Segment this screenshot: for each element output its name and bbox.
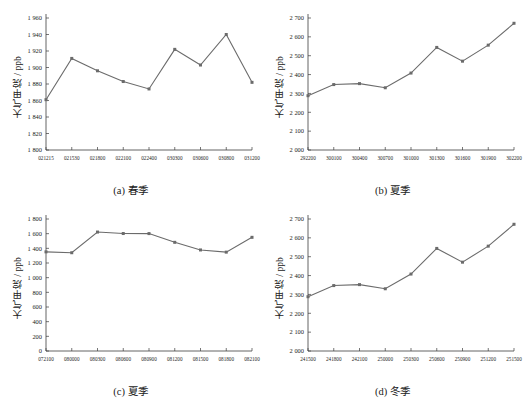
svg-text:081800: 081800 bbox=[218, 356, 234, 362]
y-axis-label-b: 大气甲烷 / ppb bbox=[272, 26, 290, 148]
y-axis-label-a: 大气甲烷 / ppb bbox=[10, 26, 28, 148]
svg-text:1 900: 1 900 bbox=[28, 64, 42, 71]
panel-caption-c: (c) 夏季 bbox=[0, 383, 261, 398]
svg-text:082100: 082100 bbox=[244, 356, 260, 362]
svg-text:1 000: 1 000 bbox=[28, 274, 42, 281]
svg-text:081500: 081500 bbox=[193, 356, 209, 362]
svg-text:200: 200 bbox=[32, 333, 42, 340]
line-chart-b: 2 0002 1002 2002 3002 4002 5002 6002 700… bbox=[262, 0, 523, 180]
figure-panel-grid: 1 8001 8201 8401 8601 8801 9001 9201 940… bbox=[0, 0, 523, 405]
svg-text:241800: 241800 bbox=[326, 356, 342, 362]
svg-text:021800: 021800 bbox=[90, 155, 106, 161]
svg-text:2 600: 2 600 bbox=[290, 234, 304, 241]
svg-text:2 700: 2 700 bbox=[290, 215, 304, 222]
svg-text:301900: 301900 bbox=[480, 155, 496, 161]
svg-text:1 820: 1 820 bbox=[28, 130, 42, 137]
plot-area-c: 02004006008001 0001 2001 4001 6001 80007… bbox=[0, 201, 261, 381]
svg-text:2 200: 2 200 bbox=[290, 109, 304, 116]
svg-text:301300: 301300 bbox=[429, 155, 445, 161]
svg-text:2 100: 2 100 bbox=[290, 127, 304, 134]
svg-text:030300: 030300 bbox=[167, 155, 183, 161]
svg-text:241500: 241500 bbox=[300, 356, 316, 362]
svg-text:1 200: 1 200 bbox=[28, 259, 42, 266]
svg-text:022100: 022100 bbox=[115, 155, 131, 161]
svg-text:080000: 080000 bbox=[64, 356, 80, 362]
plot-area-a: 1 8001 8201 8401 8601 8801 9001 9201 940… bbox=[0, 0, 261, 180]
svg-text:030800: 030800 bbox=[218, 155, 234, 161]
svg-text:021530: 021530 bbox=[64, 155, 80, 161]
svg-text:1 800: 1 800 bbox=[28, 146, 42, 153]
line-chart-d: 2 0002 1002 2002 3002 4002 5002 6002 700… bbox=[262, 201, 523, 381]
svg-text:0: 0 bbox=[39, 347, 42, 354]
svg-text:080600: 080600 bbox=[115, 356, 131, 362]
plot-area-d: 2 0002 1002 2002 3002 4002 5002 6002 700… bbox=[262, 201, 523, 381]
svg-text:300100: 300100 bbox=[326, 155, 342, 161]
svg-text:1 800: 1 800 bbox=[28, 215, 42, 222]
line-chart-a: 1 8001 8201 8401 8601 8801 9001 9201 940… bbox=[0, 0, 261, 180]
y-axis-label-d: 大气甲烷 / ppb bbox=[272, 227, 290, 349]
svg-text:301000: 301000 bbox=[403, 155, 419, 161]
svg-text:1 600: 1 600 bbox=[28, 230, 42, 237]
svg-text:080300: 080300 bbox=[90, 356, 106, 362]
svg-text:030600: 030600 bbox=[193, 155, 209, 161]
svg-text:251200: 251200 bbox=[480, 356, 496, 362]
chart-panel-d: 2 0002 1002 2002 3002 4002 5002 6002 700… bbox=[262, 201, 523, 403]
svg-text:021215: 021215 bbox=[38, 155, 54, 161]
svg-text:2 400: 2 400 bbox=[290, 272, 304, 279]
svg-text:250300: 250300 bbox=[403, 356, 419, 362]
svg-text:2 500: 2 500 bbox=[290, 253, 304, 260]
chart-panel-b: 2 0002 1002 2002 3002 4002 5002 6002 700… bbox=[262, 0, 523, 202]
svg-text:2 400: 2 400 bbox=[290, 71, 304, 78]
svg-text:2 200: 2 200 bbox=[290, 310, 304, 317]
plot-area-b: 2 0002 1002 2002 3002 4002 5002 6002 700… bbox=[262, 0, 523, 180]
svg-text:250600: 250600 bbox=[429, 356, 445, 362]
svg-text:031200: 031200 bbox=[244, 155, 260, 161]
svg-text:600: 600 bbox=[32, 303, 42, 310]
svg-text:080900: 080900 bbox=[141, 356, 157, 362]
y-axis-label-c: 大气甲烷 / ppb bbox=[10, 227, 28, 349]
svg-text:1 860: 1 860 bbox=[28, 97, 42, 104]
svg-text:081200: 081200 bbox=[167, 356, 183, 362]
svg-text:2 000: 2 000 bbox=[290, 146, 304, 153]
svg-text:2 100: 2 100 bbox=[290, 328, 304, 335]
svg-text:251500: 251500 bbox=[506, 356, 522, 362]
chart-panel-c: 02004006008001 0001 2001 4001 6001 80007… bbox=[0, 201, 261, 403]
chart-panel-a: 1 8001 8201 8401 8601 8801 9001 9201 940… bbox=[0, 0, 261, 202]
svg-text:250900: 250900 bbox=[455, 356, 471, 362]
svg-text:1 880: 1 880 bbox=[28, 80, 42, 87]
line-chart-c: 02004006008001 0001 2001 4001 6001 80007… bbox=[0, 201, 261, 381]
svg-text:072100: 072100 bbox=[38, 356, 54, 362]
svg-text:300700: 300700 bbox=[377, 155, 393, 161]
svg-text:2 300: 2 300 bbox=[290, 291, 304, 298]
svg-text:1 920: 1 920 bbox=[28, 47, 42, 54]
svg-text:2 000: 2 000 bbox=[290, 347, 304, 354]
svg-text:1 960: 1 960 bbox=[28, 14, 42, 21]
svg-text:1 400: 1 400 bbox=[28, 245, 42, 252]
svg-text:300400: 300400 bbox=[352, 155, 368, 161]
svg-text:2 500: 2 500 bbox=[290, 52, 304, 59]
svg-text:800: 800 bbox=[32, 289, 42, 296]
svg-text:292200: 292200 bbox=[300, 155, 316, 161]
panel-caption-a: (a) 春季 bbox=[0, 182, 261, 197]
svg-text:302200: 302200 bbox=[506, 155, 522, 161]
svg-text:2 700: 2 700 bbox=[290, 14, 304, 21]
panel-caption-b: (b) 夏季 bbox=[262, 182, 523, 197]
svg-text:1 940: 1 940 bbox=[28, 31, 42, 38]
panel-caption-d: (d) 冬季 bbox=[262, 383, 523, 398]
svg-text:400: 400 bbox=[32, 318, 42, 325]
svg-text:301600: 301600 bbox=[455, 155, 471, 161]
svg-text:242100: 242100 bbox=[352, 356, 368, 362]
svg-text:2 300: 2 300 bbox=[290, 90, 304, 97]
svg-text:250000: 250000 bbox=[377, 356, 393, 362]
svg-text:022400: 022400 bbox=[141, 155, 157, 161]
svg-text:2 600: 2 600 bbox=[290, 33, 304, 40]
svg-text:1 840: 1 840 bbox=[28, 113, 42, 120]
